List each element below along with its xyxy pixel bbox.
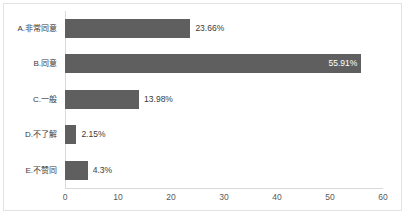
category-label-a: A.非常同意 — [0, 11, 57, 46]
bar-e[interactable] — [65, 161, 88, 180]
category-label-c: C.一般 — [0, 82, 57, 117]
xtick-50: 50 — [310, 192, 350, 202]
bar-d[interactable] — [65, 125, 76, 144]
bar-value-a: 23.66% — [195, 19, 224, 38]
bar-row: 4.3% — [65, 153, 383, 188]
bar-value-c: 13.98% — [144, 90, 173, 109]
bar-b[interactable] — [65, 54, 361, 73]
bar-row: 55.91% — [65, 46, 383, 81]
xtick-20: 20 — [151, 192, 191, 202]
bar-row: 2.15% — [65, 117, 383, 152]
bar-a[interactable] — [65, 19, 190, 38]
xtick-10: 10 — [98, 192, 138, 202]
bar-row: 23.66% — [65, 11, 383, 46]
bar-c[interactable] — [65, 90, 139, 109]
bar-row: 13.98% — [65, 82, 383, 117]
category-label-b: B.同意 — [0, 46, 57, 81]
xtick-60: 60 — [363, 192, 403, 202]
xtick-0: 0 — [45, 192, 85, 202]
plot-area: 23.66% 55.91% 13.98% 2.15% 4.3% — [65, 11, 383, 188]
bar-chart: A.非常同意 B.同意 C.一般 D.不了解 E.不赞同 23.66% 55.9… — [0, 0, 406, 215]
category-label-d: D.不了解 — [0, 117, 57, 152]
bar-value-b: 55.91% — [325, 54, 357, 73]
bar-value-d: 2.15% — [81, 125, 105, 144]
category-label-e: E.不赞同 — [0, 153, 57, 188]
xtick-40: 40 — [257, 192, 297, 202]
bar-value-e: 4.3% — [93, 161, 112, 180]
category-axis-line — [65, 188, 383, 189]
xtick-30: 30 — [204, 192, 244, 202]
